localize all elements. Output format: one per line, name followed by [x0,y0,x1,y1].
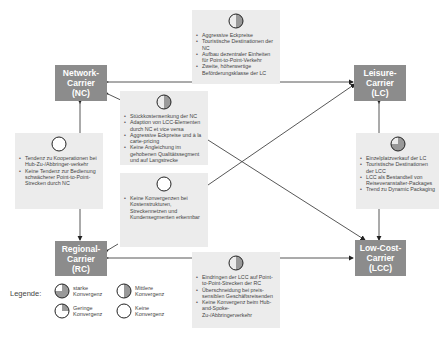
medium-convergence-icon [156,94,172,110]
legend-text: Konvergenz [73,311,102,318]
legend-item-none: KeineKonvergenz [116,303,164,319]
bullet-item: Touristische Destinationen der LCC [360,161,435,174]
bullet-item: Aufbau dezentraler Einheiten für Point-t… [196,51,276,64]
bullet-list: Einzelplatzverkauf der LC Touristische D… [360,155,435,193]
carrier-low-cost: Low-Cost- Carrier (LCC) [355,240,406,276]
bullet-item: Keine Tendenz zur Bedienung schwächerer … [19,168,99,187]
strong-convergence-icon [54,283,70,299]
medium-convergence-icon [116,283,132,299]
carrier-network: Network- Carrier (NC) [55,65,107,101]
bullet-item: Keine Konvergenz beim Hub-and-Spoke-Zu-/… [196,299,276,318]
legend-title: Legende: [10,289,41,298]
bullet-list: Keine Konvergenzen bei Kostenstrukturen,… [124,195,204,220]
carrier-label: Carrier [63,78,99,88]
bullet-item: LCC als Bestandteil von Reiseveranstalte… [360,174,435,187]
box-lc-rc: Keine Konvergenzen bei Kostenstrukturen,… [120,173,208,247]
bullet-item: Zweite, höherwertige Beförderungsklasse … [196,63,276,76]
box-nc-lcc: Stückkostensenkung der NC Adaption von L… [120,91,208,165]
bullet-item: Trend zu Dynamic Packaging [360,186,435,192]
carrier-label: Carrier [363,78,396,88]
bullet-item: Überschneidung bei preis-sensiblen Gesch… [196,287,276,300]
box-nc-rc: Tendenz zu Kooperationen bei Hub-Zu-/Abb… [15,133,103,209]
carrier-label: Network- [63,68,99,78]
bullet-item: Touristische Destinationen der NC [196,38,276,51]
legend-item-low: GeringeKonvergenz [54,303,102,319]
carrier-label: (NC) [63,88,99,98]
convergence-diagram: Network- Carrier (NC) Leisure- Carrier (… [0,0,447,340]
bullet-item: Aggressive Eckpreise und à la carte-pric… [124,132,204,145]
carrier-leisure: Leisure- Carrier (LC) [354,65,406,101]
carrier-label: Regional- [62,244,101,254]
strong-convergence-icon [390,136,406,152]
legend-item-strong: starkeKonvergenz [54,283,102,299]
no-convergence-icon [156,176,172,192]
bullet-item: Keine Konvergenzen bei Kostenstrukturen,… [124,195,204,220]
carrier-label: (LC) [363,88,396,98]
carrier-label: Carrier [360,253,402,263]
legend-text: Konvergenz [135,291,164,298]
bullet-item: Tendenz zu Kooperationen bei Hub-Zu-/Abb… [19,155,99,168]
carrier-label: Leisure- [363,68,396,78]
bullet-list: Stückkostensenkung der NC Adaption von L… [124,113,204,163]
box-nc-lc: Aggressive Eckpreise Touristische Destin… [192,10,280,84]
box-lc-lcc: Einzelplatzverkauf der LC Touristische D… [356,133,439,209]
low-convergence-icon [54,303,70,319]
legend-text: Konvergenz [135,311,164,318]
box-rc-lcc: Eindringen der LCC auf Point-to-Point-St… [192,252,280,328]
no-convergence-icon [116,303,132,319]
carrier-label: (RC) [62,264,101,274]
medium-convergence-icon [228,255,244,271]
carrier-label: Carrier [62,254,101,264]
medium-convergence-icon [228,13,244,29]
bullet-list: Eindringen der LCC auf Point-to-Point-St… [196,274,276,318]
bullet-list: Aggressive Eckpreise Touristische Destin… [196,32,276,76]
bullet-list: Tendenz zu Kooperationen bei Hub-Zu-/Abb… [19,155,99,186]
carrier-label: (LCC) [360,263,402,273]
bullet-item: Keine Angleichung im gehobenen Qualitäts… [124,144,204,163]
legend-item-medium: MittlereKonvergenz [116,283,164,299]
carrier-regional: Regional- Carrier (RC) [55,241,107,276]
bullet-item: Adaption von LCC-Elementen durch NC et v… [124,119,204,132]
bullet-item: Eindringen der LCC auf Point-to-Point-St… [196,274,276,287]
carrier-label: Low-Cost- [360,243,402,253]
no-convergence-icon [51,136,67,152]
legend-text: Konvergenz [73,291,102,298]
